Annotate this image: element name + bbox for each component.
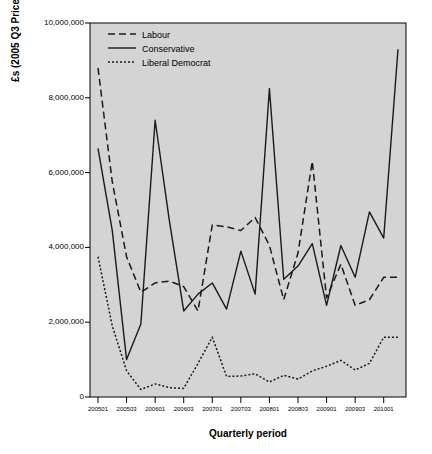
x-tick-label: 201001 (374, 406, 394, 413)
legend-label-liberal-democrat: Liberal Democrat (142, 58, 211, 68)
x-axis-title: Quarterly period (90, 428, 406, 439)
y-tick-label: 0 (22, 393, 84, 401)
x-tick-label: 200901 (317, 406, 337, 413)
x-tick-label: 200501 (88, 406, 108, 413)
legend-label-labour: Labour (142, 30, 170, 40)
y-tick-label: 6,000,000 (22, 169, 84, 177)
y-tick-label: 8,000,000 (22, 94, 84, 102)
chart-figure: £s (2005 Q3 Prices) Quarterly period 02,… (0, 0, 432, 454)
x-tick-marks (98, 397, 384, 403)
x-tick-label: 200801 (259, 406, 279, 413)
x-tick-label: 200603 (174, 406, 194, 413)
x-tick-label: 200803 (288, 406, 308, 413)
plot-background (90, 23, 406, 397)
y-tick-label: 2,000,000 (22, 318, 84, 326)
legend-label-conservative: Conservative (142, 44, 195, 54)
y-tick-label: 4,000,000 (22, 243, 84, 251)
x-tick-label: 200503 (117, 406, 137, 413)
y-tick-label: 10,000,000 (22, 19, 84, 27)
x-tick-label: 200601 (145, 406, 165, 413)
y-tick-marks (85, 23, 90, 397)
x-tick-label: 200703 (231, 406, 251, 413)
x-tick-label: 200701 (202, 406, 222, 413)
x-tick-label: 200903 (345, 406, 365, 413)
plot-canvas: LabourConservativeLiberal Democrat (0, 0, 432, 454)
